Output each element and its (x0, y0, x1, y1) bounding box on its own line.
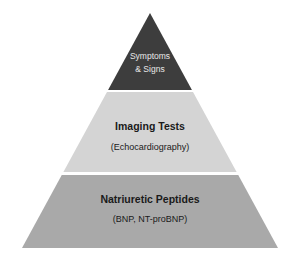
tier-label-natriuretic-title: Natriuretic Peptides (100, 193, 199, 205)
tier-band-imaging (0, 92, 296, 172)
tier-label-imaging-subtitle: (Echocardiography) (111, 142, 190, 152)
tier-label-symptoms-line2: & Signs (135, 64, 164, 74)
tier-band-natriuretic (0, 175, 296, 248)
tier-label-imaging-title: Imaging Tests (115, 120, 185, 132)
tier-label-natriuretic-subtitle: (BNP, NT-proBNP) (113, 214, 187, 224)
diagnostic-pyramid-figure: Symptoms & Signs Imaging Tests (Echocard… (0, 0, 296, 264)
pyramid-graphic: Symptoms & Signs Imaging Tests (Echocard… (0, 0, 296, 264)
tier-label-symptoms-line1: Symptoms (130, 51, 170, 61)
